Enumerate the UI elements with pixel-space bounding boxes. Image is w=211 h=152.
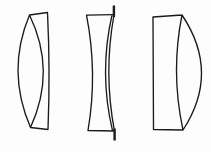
biconcave-lens-rim-ticks-icon	[114, 6, 115, 141]
biconvex-lens-icon	[18, 13, 49, 130]
biconvex-lens-group	[18, 13, 49, 130]
lens-diagram	[0, 0, 211, 152]
lens-figure-canvas	[0, 0, 211, 152]
biconcave-lens-group	[87, 6, 115, 141]
plano-convex-lens-group	[153, 15, 202, 130]
biconcave-lens-icon	[87, 15, 115, 131]
plano-convex-lens-icon	[153, 15, 202, 130]
